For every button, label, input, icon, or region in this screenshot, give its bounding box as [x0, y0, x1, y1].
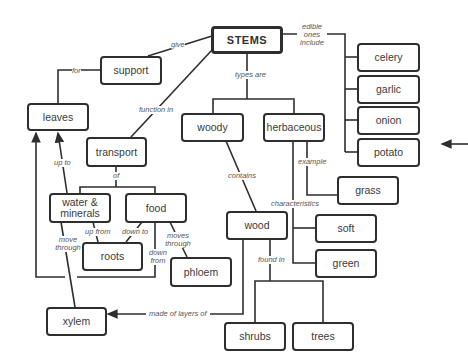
node-herbaceous[interactable]: herbaceous	[263, 113, 325, 142]
link-label-found-in: found in	[258, 256, 285, 264]
node-roots[interactable]: roots	[82, 242, 143, 271]
node-green[interactable]: green	[315, 249, 377, 278]
link-label-made-of-layers-of: made of layers of	[146, 310, 210, 318]
node-onion[interactable]: onion	[357, 106, 420, 135]
link-label-for: for	[72, 67, 81, 75]
node-transport[interactable]: transport	[86, 137, 147, 167]
node-celery[interactable]: celery	[357, 43, 420, 72]
link-label-characteristics: characteristics	[271, 200, 319, 208]
node-stems[interactable]: STEMS	[211, 26, 283, 54]
link-label-types-are: types are	[235, 71, 266, 79]
node-leaves[interactable]: leaves	[27, 103, 89, 131]
node-woody[interactable]: woody	[181, 113, 244, 142]
link-label-give: give	[171, 41, 185, 49]
node-potato[interactable]: potato	[357, 138, 420, 167]
link-label-moves-through: moves through	[165, 232, 191, 248]
link-label-up-to: up to	[54, 159, 71, 167]
node-phloem[interactable]: phloem	[170, 257, 232, 287]
node-soft[interactable]: soft	[315, 214, 377, 243]
link-label-function-in: function in	[139, 106, 173, 114]
link-label-of: of	[113, 172, 119, 180]
node-support[interactable]: support	[100, 56, 162, 85]
node-garlic[interactable]: garlic	[357, 75, 420, 104]
link-label-example: example	[298, 158, 326, 166]
node-food[interactable]: food	[125, 193, 187, 223]
node-xylem[interactable]: xylem	[46, 307, 107, 336]
node-water-minerals[interactable]: water & minerals	[49, 193, 111, 223]
node-trees[interactable]: trees	[292, 322, 354, 351]
link-label-contains: contains	[228, 172, 256, 180]
link-label-down-from: down from	[149, 249, 167, 265]
link-label-edible-ones-include: edible ones include	[297, 23, 327, 47]
node-wood[interactable]: wood	[226, 211, 288, 240]
node-grass[interactable]: grass	[337, 176, 399, 205]
node-shrubs[interactable]: shrubs	[224, 322, 286, 351]
link-label-up-from: up from	[85, 228, 110, 236]
link-label-down-to: down to	[122, 228, 148, 236]
concept-map: give for function in types are edible on…	[0, 0, 468, 361]
link-label-move-through: move through	[55, 236, 81, 252]
